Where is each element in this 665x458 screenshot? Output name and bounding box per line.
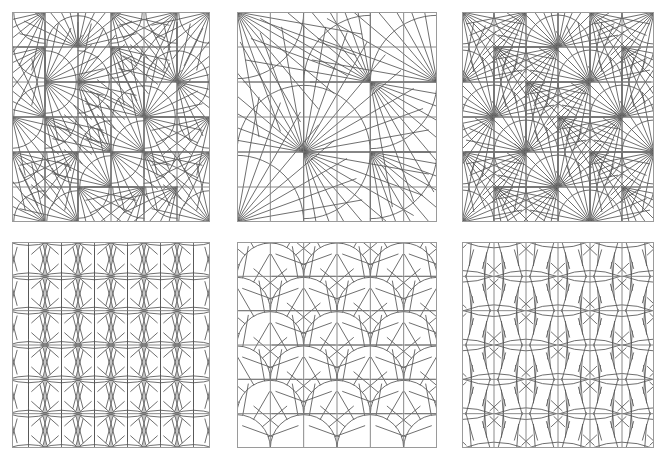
- panel-top-middle-canvas: [237, 12, 437, 222]
- panel-top-middle: [237, 12, 437, 222]
- panel-top-right: [462, 12, 654, 222]
- panel-bottom-middle-canvas: [237, 242, 437, 448]
- panel-bottom-right: [462, 242, 654, 448]
- panel-bottom-left-canvas: [12, 242, 210, 448]
- panel-top-middle-gridlines: [237, 12, 437, 222]
- panel-bottom-middle: [237, 242, 437, 448]
- panel-top-left-canvas: [12, 12, 210, 222]
- tiling-figure: [0, 0, 665, 458]
- panel-bottom-left: [12, 242, 210, 448]
- panel-bottom-right-canvas: [462, 242, 654, 448]
- panel-top-right-canvas: [462, 12, 654, 222]
- panel-top-left: [12, 12, 210, 222]
